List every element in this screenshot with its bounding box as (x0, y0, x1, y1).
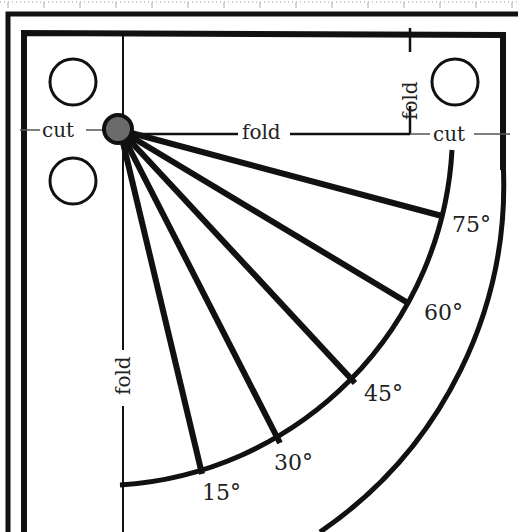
fold-label-horizontal: fold (242, 120, 281, 144)
cut-label-right: cut (433, 122, 465, 146)
ruler-ticks (8, 2, 512, 8)
spoke-45 (120, 130, 355, 383)
angle-label-15: 15° (202, 480, 241, 505)
angle-label-60: 60° (424, 300, 463, 325)
spoke-15 (120, 130, 202, 474)
angle-label-75: 75° (452, 212, 491, 237)
hole-mid-left (50, 158, 96, 204)
angle-spokes (120, 130, 442, 474)
fold-label-left-vertical: fold (111, 356, 135, 395)
cut-label-left: cut (42, 118, 74, 142)
inner-arc (120, 150, 452, 485)
pivot-point (104, 115, 132, 143)
angle-label-45: 45° (364, 381, 403, 406)
angle-label-30: 30° (274, 450, 313, 475)
fold-label-top-vertical: fold (398, 81, 422, 120)
hole-top-left (50, 59, 96, 105)
hole-top-right (432, 59, 478, 105)
quadrant-template-diagram: cut fold cut fold fold 75° 60° 45° 30° 1… (0, 0, 518, 532)
